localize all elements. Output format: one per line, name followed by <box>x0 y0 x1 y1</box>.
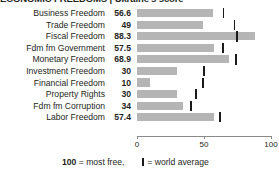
table-row: Fiscal Freedom88.3 <box>0 31 279 43</box>
legend-world-average-text: = world average <box>147 157 208 167</box>
row-plot-area <box>137 112 271 124</box>
chart-title-clipped-region: ECONOMIC FREEDOMS | Ukraine's score <box>0 0 279 4</box>
bar-rows-container: Business Freedom56.6Trade Freedom49Fisca… <box>0 8 279 123</box>
row-plot-area <box>137 54 271 66</box>
row-score-value: 57.4 <box>114 112 131 123</box>
table-row: Fdm fm Corruption34 <box>0 100 279 112</box>
row-plot-area <box>137 31 271 43</box>
world-average-marker <box>222 43 224 53</box>
row-score-value: 56.6 <box>114 8 131 19</box>
row-score-value: 30 <box>121 89 131 100</box>
row-category-label: Fdm fm Corruption <box>33 101 105 112</box>
row-category-label: Business Freedom <box>33 8 105 19</box>
legend-inner: 100 = most free, = world average <box>62 155 209 169</box>
row-score-value: 10 <box>121 78 131 89</box>
table-row: Labor Freedom57.4 <box>0 112 279 124</box>
score-bar <box>137 90 177 98</box>
row-plot-area <box>137 77 271 89</box>
economic-freedoms-chart: ECONOMIC FREEDOMS | Ukraine's score Busi… <box>0 0 279 174</box>
table-row: Property Rights30 <box>0 89 279 101</box>
table-row: Business Freedom56.6 <box>0 8 279 20</box>
row-score-value: 68.9 <box>114 54 131 65</box>
world-average-marker <box>223 8 225 18</box>
row-category-label: Fiscal Freedom <box>46 31 105 42</box>
row-score-value: 30 <box>121 66 131 77</box>
row-category-label: Financial Freedom <box>34 78 105 89</box>
score-bar <box>137 67 177 75</box>
legend-score-text: = most free, <box>79 157 125 167</box>
score-bar <box>137 102 183 110</box>
x-axis-tick-label: 50 <box>200 140 209 149</box>
table-row: Financial Freedom10 <box>0 77 279 89</box>
row-plot-area <box>137 89 271 101</box>
row-category-label: Monetary Freedom <box>32 54 105 65</box>
row-score-value: 88.3 <box>114 31 131 42</box>
row-plot-area <box>137 20 271 32</box>
row-score-value: 34 <box>121 101 131 112</box>
score-bar <box>137 113 214 121</box>
score-bar <box>137 44 214 52</box>
score-bar <box>137 21 203 29</box>
world-average-marker <box>235 54 237 64</box>
row-plot-area <box>137 43 271 55</box>
row-category-label: Property Rights <box>46 89 105 100</box>
row-category-label: Trade Freedom <box>46 20 105 31</box>
world-average-marker <box>219 112 221 122</box>
legend-score-number: 100 <box>62 157 76 167</box>
score-bar <box>137 9 213 17</box>
row-category-label: Fdm fm Government <box>26 43 105 54</box>
world-average-marker <box>202 78 204 88</box>
world-average-marker <box>203 66 205 76</box>
chart-legend: 100 = most free, = world average <box>0 155 279 169</box>
world-average-marker <box>195 89 197 99</box>
vertical-bar-icon <box>142 158 144 167</box>
world-average-marker <box>236 31 238 41</box>
table-row: Trade Freedom49 <box>0 20 279 32</box>
row-score-value: 57.5 <box>114 43 131 54</box>
row-category-label: Labor Freedom <box>46 112 105 123</box>
score-bar <box>137 55 229 63</box>
row-plot-area <box>137 8 271 20</box>
x-axis: 050100 <box>137 136 271 150</box>
x-axis-tick-label: 0 <box>135 140 139 149</box>
table-row: Investment Freedom30 <box>0 66 279 78</box>
row-score-value: 49 <box>121 20 131 31</box>
row-plot-area <box>137 66 271 78</box>
row-category-label: Investment Freedom <box>26 66 105 77</box>
world-average-marker <box>234 20 236 30</box>
score-bar <box>137 78 150 86</box>
table-row: Fdm fm Government57.5 <box>0 43 279 55</box>
world-average-marker <box>190 101 192 111</box>
x-axis-tick-label: 100 <box>264 140 277 149</box>
row-plot-area <box>137 100 271 112</box>
page-title: ECONOMIC FREEDOMS | Ukraine's score <box>0 0 279 4</box>
table-row: Monetary Freedom68.9 <box>0 54 279 66</box>
